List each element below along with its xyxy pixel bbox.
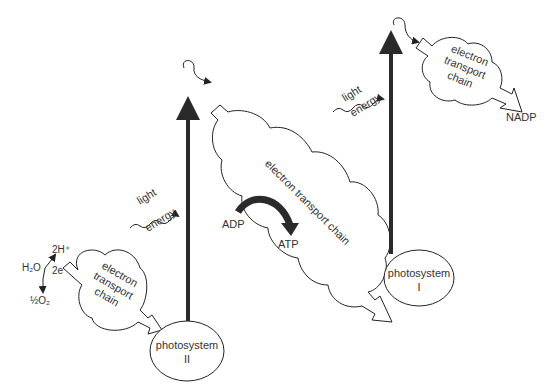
photosystem-2: photosystem II (150, 321, 224, 381)
water-split: H₂O 2H⁺ 2e⁻ ½O₂ (22, 244, 70, 306)
photosystem-1: photosystem I (384, 250, 454, 306)
svg-text:photosystem: photosystem (388, 267, 450, 279)
z-scheme-diagram: H₂O 2H⁺ 2e⁻ ½O₂ electron transport chain… (0, 0, 552, 392)
nadp-label: NADP (506, 111, 537, 123)
svg-text:energy: energy (143, 205, 178, 233)
atp-label: ATP (278, 238, 299, 250)
oxygen-arrow (43, 268, 45, 292)
light-energy-left: light energy (130, 186, 178, 234)
svg-text:photosystem: photosystem (156, 339, 218, 351)
svg-text:II: II (184, 353, 190, 365)
light-energy-right: light energy (333, 83, 383, 119)
adp-label: ADP (222, 218, 245, 230)
etc-left-cloud: electron transport chain (63, 250, 162, 334)
oxygen-label: ½O₂ (30, 295, 50, 306)
psi-electron-hop-arrow (393, 18, 418, 42)
protons-label: 2H⁺ (52, 244, 70, 255)
svg-text:I: I (417, 281, 420, 293)
etc-middle-cloud: electron transport chain (211, 105, 392, 322)
svg-text:light: light (135, 186, 158, 207)
etc-right-cloud: electron transport chain NADP (416, 37, 537, 123)
h2o-label: H₂O (22, 262, 41, 273)
psii-electron-hop-arrow (183, 61, 210, 83)
